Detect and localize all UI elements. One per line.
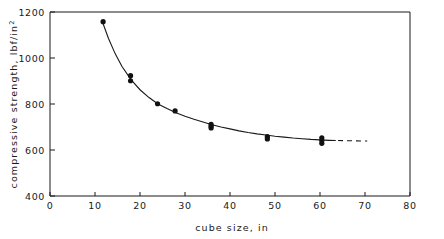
data-point xyxy=(128,78,133,83)
x-tick-label: 20 xyxy=(133,200,146,211)
data-point xyxy=(265,136,270,141)
plot-frame xyxy=(50,12,410,196)
data-point xyxy=(155,101,160,106)
x-tick-label: 0 xyxy=(47,200,54,211)
y-tick-label: 1200 xyxy=(18,7,45,18)
x-tick-label: 40 xyxy=(223,200,236,211)
data-point xyxy=(209,125,214,130)
y-tick-label: 1000 xyxy=(18,53,45,64)
x-tick-label: 10 xyxy=(88,200,101,211)
x-tick-label: 50 xyxy=(268,200,281,211)
y-axis-ticks xyxy=(50,12,55,196)
data-point xyxy=(319,141,324,146)
fit-curve xyxy=(102,20,336,141)
x-axis-tick-labels: 01020304050607080 xyxy=(47,200,417,211)
y-axis-tick-labels: 40060080010001200 xyxy=(18,7,45,202)
x-axis-title: cube size, in xyxy=(195,222,269,233)
data-point xyxy=(101,19,106,24)
x-tick-label: 60 xyxy=(313,200,326,211)
x-axis-ticks xyxy=(50,192,410,196)
y-tick-label: 600 xyxy=(25,145,45,156)
x-tick-label: 30 xyxy=(178,200,191,211)
axes-frame xyxy=(50,12,410,196)
compressive-strength-vs-cube-size-chart: 01020304050607080 40060080010001200 cube… xyxy=(0,0,444,239)
y-tick-label: 800 xyxy=(25,99,45,110)
x-tick-label: 70 xyxy=(358,200,371,211)
chart-figure: 01020304050607080 40060080010001200 cube… xyxy=(0,0,444,239)
data-point xyxy=(128,73,133,78)
y-axis-title: compressive strength, lbf/in2 xyxy=(8,20,20,189)
data-point xyxy=(173,108,178,113)
y-tick-label: 400 xyxy=(25,191,45,202)
x-tick-label: 80 xyxy=(403,200,416,211)
